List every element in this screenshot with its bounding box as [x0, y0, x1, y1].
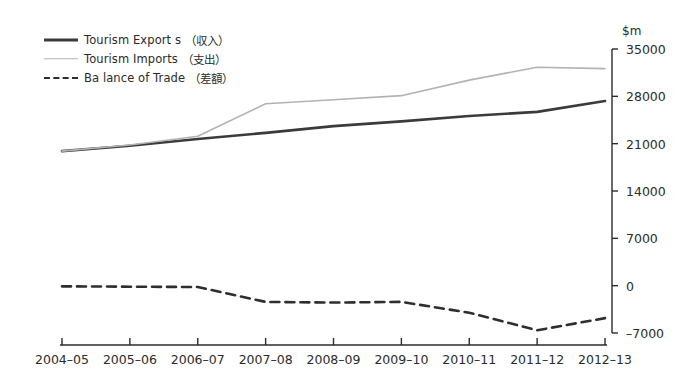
y-axis-tick-label: 0	[626, 278, 634, 293]
y-axis-tick-label: 35000	[626, 42, 666, 57]
x-axis-tick-label: 2012–13	[578, 352, 632, 367]
y-axis-unit-label: $m	[622, 24, 641, 38]
y-axis-tick-label: 21000	[626, 136, 666, 151]
chart-series-layer	[62, 67, 605, 330]
chart-page: Tourism Export s （収入） Tourism Imports （支…	[0, 0, 686, 390]
chart-series-line	[62, 67, 605, 151]
x-axis-tick-label: 2007–08	[239, 352, 293, 367]
x-axis-tick-label: 2008–09	[307, 352, 361, 367]
x-axis-tick-label: 2010–11	[442, 352, 496, 367]
y-axis-tick-label: 14000	[626, 184, 666, 199]
x-axis-tick-label: 2009–10	[374, 352, 428, 367]
y-axis-tick-label: 7000	[626, 231, 658, 246]
y-axis-tick-label: –7000	[626, 326, 664, 341]
y-axis-tick-label: 28000	[626, 89, 666, 104]
chart-plot-area	[0, 0, 686, 390]
x-axis-tick-label: 2006–07	[171, 352, 225, 367]
chart-series-line	[62, 286, 605, 330]
chart-axes	[60, 49, 618, 345]
x-axis-tick-label: 2004–05	[35, 352, 89, 367]
x-axis-tick-label: 2011–12	[510, 352, 564, 367]
x-axis-tick-label: 2005–06	[103, 352, 157, 367]
